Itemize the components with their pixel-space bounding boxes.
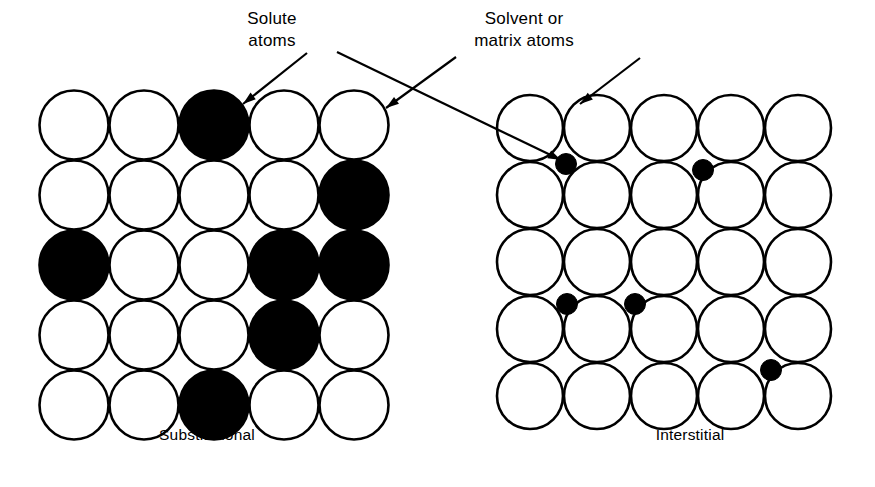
host-atom [497, 95, 563, 161]
host-atom [631, 229, 697, 295]
host-atom [497, 296, 563, 362]
host-atom [320, 91, 389, 160]
host-atom [40, 301, 109, 370]
host-atom [631, 95, 697, 161]
host-atom [631, 162, 697, 228]
host-atom [698, 296, 764, 362]
host-atom [765, 296, 831, 362]
host-atom [110, 161, 179, 230]
host-atom [698, 95, 764, 161]
interstitial-solute-atom [556, 154, 577, 175]
solvent-label-line2: matrix atoms [474, 31, 574, 50]
solute-atom [180, 91, 249, 160]
host-atom [180, 161, 249, 230]
host-atom [564, 229, 630, 295]
host-atom [180, 301, 249, 370]
host-atom [765, 95, 831, 161]
interstitial-solute-atom [557, 294, 578, 315]
solute-atom [250, 231, 319, 300]
solute-atom [40, 231, 109, 300]
caption-substitutional: Substitutional [159, 426, 255, 443]
figure-canvas: Solute atoms Solvent or matrix atoms Sub… [0, 0, 875, 487]
host-atom [698, 363, 764, 429]
host-atom [497, 363, 563, 429]
solute-label-line2: atoms [248, 31, 295, 50]
host-atom [250, 371, 319, 440]
solvent-label-line1: Solvent or [485, 9, 564, 28]
host-atom [631, 363, 697, 429]
host-atom [110, 301, 179, 370]
host-atom [698, 229, 764, 295]
host-atom [564, 95, 630, 161]
solute-atom [320, 231, 389, 300]
host-atom [497, 229, 563, 295]
host-atom [765, 162, 831, 228]
host-atom [250, 161, 319, 230]
solute-label-line1: Solute [247, 9, 296, 28]
substitutional-lattice [40, 91, 389, 440]
host-atom [110, 91, 179, 160]
host-atom [564, 363, 630, 429]
host-atom [497, 162, 563, 228]
solute-atom [320, 161, 389, 230]
interstitial-solute-atom [761, 360, 782, 381]
interstitial-solute-atom [693, 160, 714, 181]
interstitial-lattice [497, 95, 831, 429]
host-atom [250, 91, 319, 160]
host-atom [40, 91, 109, 160]
host-atom [40, 161, 109, 230]
solid-solution-figure: Solute atoms Solvent or matrix atoms Sub… [0, 0, 875, 487]
host-atom [320, 371, 389, 440]
caption-interstitial: Interstitial [656, 426, 725, 443]
host-atom [180, 231, 249, 300]
solute-atom [250, 301, 319, 370]
host-atom [564, 162, 630, 228]
interstitial-solute-atom [625, 294, 646, 315]
host-atom [40, 371, 109, 440]
host-atom [320, 301, 389, 370]
host-atom [110, 231, 179, 300]
host-atom [765, 229, 831, 295]
